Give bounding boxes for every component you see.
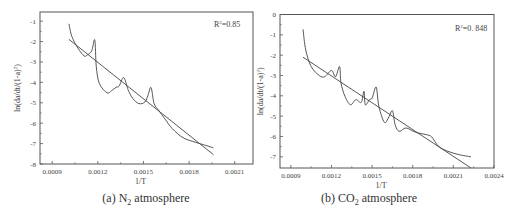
y-axis-label: ln(da/dt/(1-a)2) [256,67,265,115]
linear-fit-line [303,57,471,168]
x-tick-label: 0.0012 [322,172,342,180]
linear-fit-line [69,39,214,154]
chart-panel-co2: 0.00090.00120.00150.00180.00210.00240-1-… [256,11,504,190]
x-tick-label: 0.0024 [484,172,504,180]
caption-co2-atmosphere: (b) CO2 atmosphere [321,191,417,207]
y-tick-label: -3 [270,72,276,80]
y-tick-label: -7 [270,153,276,161]
caption-suffix: atmosphere [131,191,189,205]
caption-suffix: atmosphere [359,191,417,205]
caption-n2-atmosphere: (a) N2 atmosphere [102,191,189,207]
y-tick-label: -6 [30,120,36,128]
caption-prefix: (a) N [102,191,127,205]
x-tick-label: 0.0009 [281,172,301,180]
y-tick-label: -3 [30,58,36,66]
y-tick-label: -2 [270,52,276,60]
y-tick-label: -6 [270,133,276,141]
experimental-curve [69,24,214,148]
y-tick-label: -5 [270,113,276,121]
r-squared-annotation: R2=0.85 [214,20,240,29]
x-tick-label: 0.0018 [179,168,199,176]
y-tick-label: -1 [270,31,276,39]
y-tick-label: 0 [273,11,277,19]
y-tick-label: -4 [30,79,36,87]
caption-prefix: (b) CO [321,191,355,205]
y-tick-label: -5 [30,99,36,107]
y-tick-label: -7 [30,140,36,148]
experimental-curve [303,29,471,156]
x-tick-label: 0.0021 [225,168,245,176]
chart-panel-n2: 0.00090.00120.00150.00180.0021-1-2-3-4-5… [13,12,253,186]
y-axis-label: ln(da/dt/(1-a)2) [13,64,22,112]
plot-frame [280,15,494,169]
x-tick-label: 0.0009 [43,168,63,176]
y-tick-label: -4 [270,92,276,100]
x-tick-label: 0.0018 [403,172,423,180]
x-tick-label: 0.0015 [362,172,382,180]
plot-frame [40,12,253,164]
figure-canvas: 0.00090.00120.00150.00180.0021-1-2-3-4-5… [0,0,519,216]
x-tick-label: 0.0015 [134,168,154,176]
y-tick-label: -8 [30,161,36,169]
x-axis-label: 1/T [135,177,146,186]
x-tick-label: 0.0021 [444,172,464,180]
y-tick-label: -1 [30,18,36,26]
x-axis-label: 1/T [375,181,386,190]
r-squared-annotation: R2=0. 848 [455,24,487,33]
y-tick-label: -2 [30,38,36,46]
x-tick-label: 0.0012 [88,168,108,176]
